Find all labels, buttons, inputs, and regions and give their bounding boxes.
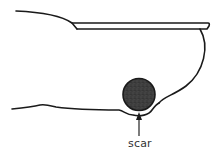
finger-top-outline (16, 11, 77, 29)
scar-label: scar (128, 137, 152, 150)
fingernail (72, 23, 209, 29)
fingertip-diagram (0, 0, 218, 156)
scar-mark (123, 79, 155, 111)
fingertip-outline (159, 29, 205, 103)
